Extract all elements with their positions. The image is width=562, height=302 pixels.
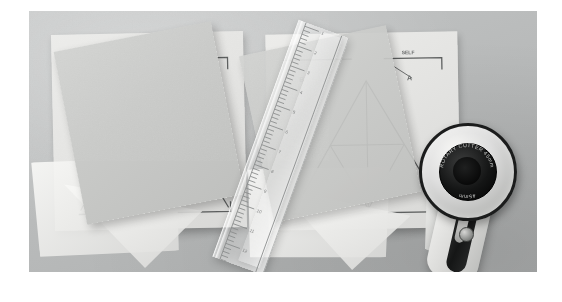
- ruler-minor-tick: [260, 149, 267, 151]
- ruler-major-tick: [247, 184, 261, 189]
- ruler-minor-tick: [257, 157, 264, 159]
- ruler-tick-label: 7: [278, 149, 283, 155]
- ruler-major-tick: [226, 243, 240, 248]
- ruler-minor-tick: [256, 160, 263, 162]
- ruler-tick-label: 8: [270, 169, 275, 175]
- ruler-minor-tick: [259, 153, 266, 155]
- ruler-minor-tick: [285, 82, 292, 84]
- hub-text-path-bottom: 45mm: [458, 193, 477, 200]
- ruler-major-tick: [305, 26, 319, 31]
- ruler-minor-tick: [289, 70, 296, 72]
- ruler-minor-tick: [300, 38, 307, 40]
- ruler-major-tick: [290, 66, 304, 71]
- ruler-minor-tick: [253, 168, 260, 170]
- ruler-major-tick: [298, 46, 312, 51]
- ruler-minor-tick: [237, 212, 244, 214]
- thumb-screw[interactable]: [459, 227, 474, 242]
- ruler-minor-tick: [295, 54, 302, 56]
- ruler-minor-tick: [296, 50, 303, 52]
- ruler-minor-tick: [263, 141, 270, 143]
- hub-center: [453, 157, 481, 185]
- ruler-minor-tick: [265, 137, 272, 139]
- ruler-minor-tick: [280, 93, 287, 95]
- ruler-minor-tick: [286, 78, 293, 80]
- photograph: B A C SELF B A: [29, 11, 537, 272]
- ruler-minor-tick: [224, 247, 231, 249]
- card-stock-square-left[interactable]: [54, 21, 245, 224]
- ruler-minor-tick: [292, 62, 299, 64]
- ruler-minor-tick: [302, 34, 309, 36]
- ruler-tick-label: 2: [313, 50, 318, 56]
- ruler-minor-tick: [249, 180, 256, 182]
- ruler-minor-tick: [299, 42, 306, 44]
- ruler-minor-tick: [303, 30, 310, 32]
- ruler-minor-tick: [267, 129, 274, 131]
- ruler-minor-tick: [230, 231, 237, 233]
- ruler-major-tick: [276, 105, 290, 110]
- ruler-tick-label: 12: [242, 248, 249, 255]
- ruler-minor-tick: [244, 192, 251, 194]
- ruler-minor-tick: [272, 117, 279, 119]
- ruler-tick-label: 3: [306, 70, 311, 76]
- ruler-minor-tick: [242, 200, 249, 202]
- ruler-minor-tick: [282, 89, 289, 91]
- piece-label-a-right: A: [407, 74, 412, 81]
- ruler-minor-tick: [232, 228, 239, 230]
- ruler-minor-tick: [239, 208, 246, 210]
- ruler-minor-tick: [288, 74, 295, 76]
- ruler-major-tick: [233, 224, 247, 229]
- selvage-text-right: SELF: [402, 49, 415, 55]
- ruler-minor-tick: [279, 97, 286, 99]
- ruler-minor-tick: [223, 251, 230, 253]
- ruler-tick-label: 1: [321, 31, 326, 37]
- ruler-tick-label: 10: [256, 208, 263, 215]
- ruler-major-tick: [262, 145, 276, 150]
- ruler-minor-tick: [275, 109, 282, 111]
- ruler-minor-tick: [250, 176, 257, 178]
- ruler-minor-tick: [252, 172, 259, 174]
- ruler-major-tick: [269, 125, 283, 130]
- ruler-tick-label: 6: [285, 129, 290, 135]
- ruler-minor-tick: [277, 101, 284, 103]
- screenshot-root: B A C SELF B A: [0, 0, 562, 302]
- ruler-tick-label: 4: [299, 90, 304, 96]
- ruler-minor-tick: [293, 58, 300, 60]
- ruler-minor-tick: [270, 121, 277, 123]
- ruler-minor-tick: [243, 196, 250, 198]
- ruler-minor-tick: [234, 220, 241, 222]
- ruler-major-tick: [255, 164, 269, 169]
- ruler-minor-tick: [229, 235, 236, 237]
- rotary-cutter[interactable]: ROTARY CUTTER 45mm 45mm: [413, 117, 537, 272]
- hub-text-bottom: 45mm: [458, 193, 477, 200]
- ruler-minor-tick: [266, 133, 273, 135]
- ruler-minor-tick: [236, 216, 243, 218]
- ruler-minor-tick: [221, 255, 228, 257]
- ruler-tick-label: 5: [292, 109, 297, 115]
- ruler-minor-tick: [273, 113, 280, 115]
- ruler-tick-label: 9: [263, 188, 268, 194]
- ruler-minor-tick: [246, 188, 253, 190]
- ruler-major-tick: [240, 204, 254, 209]
- ruler-minor-tick: [227, 239, 234, 241]
- ruler-tick-label: 11: [249, 228, 256, 234]
- ruler-major-tick: [283, 85, 297, 90]
